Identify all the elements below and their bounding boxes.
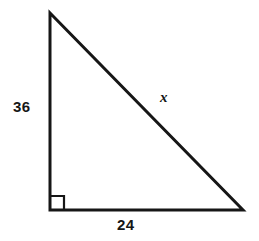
hypotenuse-label: x: [160, 90, 168, 105]
geometry-figure: 36 24 x: [0, 0, 259, 241]
right-angle-marker-icon: [50, 196, 64, 210]
triangle-outline: [50, 13, 243, 210]
vertical-leg-label: 36: [13, 99, 30, 114]
right-triangle-drawing: [0, 0, 259, 241]
base-leg-label: 24: [117, 217, 134, 232]
